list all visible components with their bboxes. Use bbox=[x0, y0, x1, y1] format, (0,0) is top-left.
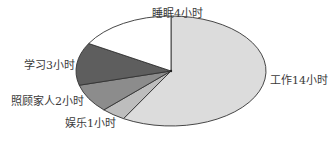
label-work: 工作14小时 bbox=[270, 75, 328, 87]
label-study: 学习3小时 bbox=[24, 60, 75, 72]
label-fun: 娱乐1小时 bbox=[65, 118, 116, 130]
pie-center-dot bbox=[170, 70, 172, 72]
label-sleep: 睡眠4小时 bbox=[152, 8, 203, 20]
pie-chart: 睡眠4小时 学习3小时 照顾家人2小时 娱乐1小时 工作14小时 bbox=[0, 0, 331, 142]
label-family: 照顾家人2小时 bbox=[11, 96, 84, 108]
